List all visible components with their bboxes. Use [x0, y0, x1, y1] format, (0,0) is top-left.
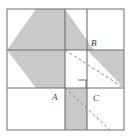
vertex-label-B: B [91, 38, 97, 48]
vertex-label-C: C [93, 93, 100, 103]
geometry-figure: ABC [0, 0, 132, 138]
vertex-label-A: A [51, 92, 58, 102]
geometry-canvas: ABC [0, 0, 132, 138]
shaded-region-triangle-bottom-mid [65, 88, 87, 130]
